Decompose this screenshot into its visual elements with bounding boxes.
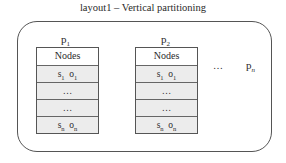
table-row: sn on: [37, 116, 98, 133]
partition-label-pn: pn: [246, 59, 255, 74]
table-row: s1 o1: [136, 65, 197, 82]
table-row: …: [136, 82, 197, 99]
table-row: sn on: [136, 116, 197, 133]
partition-label-p2: p2: [161, 33, 170, 48]
partition-table-p2: Nodes s1 o1 … … sn on: [135, 47, 198, 134]
table-header: Nodes: [37, 48, 98, 65]
table-row: …: [37, 99, 98, 116]
table-header: Nodes: [136, 48, 197, 65]
table-row: …: [37, 82, 98, 99]
partition-table-p1: Nodes s1 o1 … … sn on: [36, 47, 99, 134]
diagram-title: layout1 – Vertical partitioning: [0, 2, 286, 13]
partition-label-p1: p1: [61, 33, 70, 48]
ellipsis: …: [213, 60, 223, 71]
table-row: s1 o1: [37, 65, 98, 82]
table-row: …: [136, 99, 197, 116]
